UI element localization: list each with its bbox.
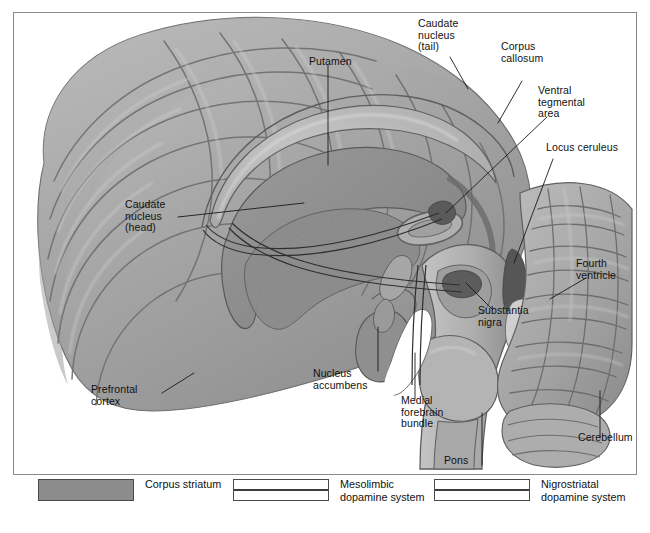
label-fourth-ventricle: Fourth ventricle bbox=[576, 258, 616, 281]
label-caudate-head: Caudate nucleus (head) bbox=[125, 199, 165, 234]
legend-item-mesolimbic-system: Mesolimbic dopamine system bbox=[233, 478, 425, 505]
legend-swatch-corpus-striatum bbox=[38, 479, 134, 501]
label-substantia-nigra: Substantia nigra bbox=[478, 305, 529, 328]
label-pons: Pons bbox=[444, 455, 468, 467]
legend-label-corpus-striatum: Corpus striatum bbox=[145, 478, 221, 491]
legend-item-corpus-striatum: Corpus striatum bbox=[38, 478, 221, 501]
label-putamen: Putamen bbox=[309, 56, 352, 68]
figure-frame: Putamen Caudate nucleus (tail) Corpus ca… bbox=[13, 12, 637, 475]
legend-swatch-nigrostriatal-system bbox=[434, 479, 530, 501]
legend: Corpus striatum Mesolimbic dopamine syst… bbox=[0, 478, 650, 533]
label-cerebellum: Cerebellum bbox=[578, 432, 633, 444]
label-locus-ceruleus: Locus ceruleus bbox=[546, 142, 618, 154]
label-medial-forebrain-bundle: Medial forebrain bundle bbox=[401, 395, 443, 430]
label-nucleus-accumbens: Nucleus accumbens bbox=[313, 368, 368, 391]
label-prefrontal-cortex: Prefrontal cortex bbox=[91, 384, 138, 407]
label-ventral-tegmental-area: Ventral tegmental area bbox=[538, 85, 585, 120]
legend-swatch-mesolimbic-system bbox=[233, 479, 329, 501]
legend-label-nigrostriatal-system: Nigrostriatal dopamine system bbox=[541, 478, 626, 505]
legend-label-mesolimbic-system: Mesolimbic dopamine system bbox=[340, 478, 425, 505]
label-corpus-callosum: Corpus callosum bbox=[501, 41, 543, 64]
legend-item-nigrostriatal-system: Nigrostriatal dopamine system bbox=[434, 478, 626, 505]
label-caudate-tail: Caudate nucleus (tail) bbox=[418, 18, 458, 53]
